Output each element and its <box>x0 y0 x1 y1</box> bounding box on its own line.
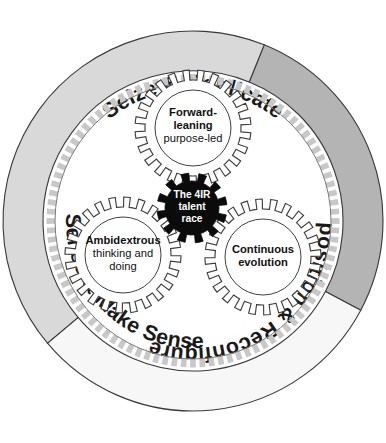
inner-ring-tooth <box>47 236 56 243</box>
center-gear-label-line: talent <box>178 201 206 212</box>
inner-ring-tooth <box>102 329 112 339</box>
gear-label-line: purpose-led <box>163 132 222 144</box>
inner-ring-tooth <box>199 359 205 368</box>
inner-ring-tooth <box>81 122 91 132</box>
center-gear: The 4IRtalentrace <box>157 173 227 243</box>
inner-ring-tooth <box>331 227 340 233</box>
gear-label-line: thinking and <box>93 247 153 259</box>
inner-ring-tooth <box>190 359 196 367</box>
inner-ring-tooth <box>47 199 56 206</box>
gear-label-line: evolution <box>238 256 288 268</box>
gear-label-continuous-evolution: Continuousevolution <box>232 243 294 268</box>
gear-label-line: Forward- <box>169 106 217 118</box>
inner-ring-tooth <box>49 245 58 252</box>
gear-label-line: Ambidextrous <box>85 234 160 246</box>
gear-wheel-diagram: Seize & Replicate Sense & Make Sense Rep… <box>0 0 386 443</box>
gear-label-line: Continuous <box>232 243 294 255</box>
inner-ring-tooth <box>75 130 85 140</box>
center-gear-label-line: The 4IR <box>174 189 211 200</box>
inner-ring-tooth <box>329 199 338 206</box>
inner-ring-tooth <box>328 190 337 197</box>
gear-label-line: doing <box>109 260 136 272</box>
gear-label-line: leaning <box>173 119 212 131</box>
inner-ring-tooth <box>47 209 56 215</box>
inner-ring-tooth <box>301 130 311 140</box>
inner-ring-tooth <box>47 218 55 224</box>
inner-ring-tooth <box>87 317 97 327</box>
diagram-root: Seize & Replicate Sense & Make Sense Rep… <box>0 0 386 443</box>
inner-ring-tooth <box>331 218 339 224</box>
inner-ring-tooth <box>289 115 299 125</box>
inner-ring-tooth <box>75 303 85 313</box>
inner-ring-tooth <box>87 115 97 125</box>
inner-ring-tooth <box>295 122 305 132</box>
center-gear-label-line: race <box>182 213 203 224</box>
inner-ring-tooth <box>331 209 340 215</box>
inner-ring-tooth <box>47 227 56 233</box>
inner-ring-tooth <box>81 310 91 320</box>
inner-ring-tooth <box>181 359 187 368</box>
inner-ring-tooth <box>49 190 58 197</box>
inner-ring-tooth <box>94 323 104 333</box>
